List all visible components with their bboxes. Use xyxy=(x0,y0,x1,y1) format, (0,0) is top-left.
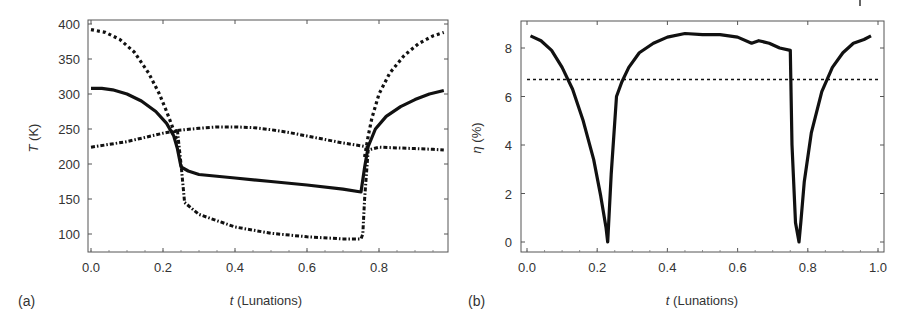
series-line-dotted xyxy=(91,30,177,143)
panel-label-b: (b) xyxy=(468,293,485,309)
axis-ticks-b: 0.00.20.40.60.81.002468 xyxy=(505,21,887,275)
y-axis-label-b: η (%) xyxy=(469,122,484,153)
y-tick-label: 400 xyxy=(58,17,80,32)
x-tick-label: 0.0 xyxy=(518,260,536,275)
series-line-solid xyxy=(91,88,444,192)
y-tick-label: 200 xyxy=(58,157,80,172)
chart-panel-a: 0.00.20.40.60.8100150200250300350400 T (… xyxy=(18,17,448,309)
panel-label-a: (a) xyxy=(18,293,35,309)
plot-series-a xyxy=(91,30,444,239)
plot-series-b xyxy=(527,34,878,243)
y-tick-label: 150 xyxy=(58,192,80,207)
x-tick-label: 0.2 xyxy=(588,260,606,275)
y-tick-label: 300 xyxy=(58,87,80,102)
x-tick-label: 0.0 xyxy=(82,260,100,275)
x-tick-label: 0.6 xyxy=(729,260,747,275)
x-tick-label: 0.6 xyxy=(298,260,316,275)
x-tick-label: 0.8 xyxy=(370,260,388,275)
axis-ticks-a: 0.00.20.40.60.8100150200250300350400 xyxy=(58,17,448,275)
y-tick-label: 100 xyxy=(58,227,80,242)
x-tick-label: 0.4 xyxy=(658,260,676,275)
x-tick-label: 0.2 xyxy=(154,260,172,275)
y-tick-label: 2 xyxy=(505,187,512,202)
y-tick-label: 0 xyxy=(505,235,512,250)
x-tick-label: 0.4 xyxy=(226,260,244,275)
x-axis-label-b: t (Lunations) xyxy=(666,293,738,308)
x-tick-label: 0.8 xyxy=(799,260,817,275)
series-line-dash-dot xyxy=(91,130,177,147)
x-tick-label: 1.0 xyxy=(869,260,887,275)
plot-frame-b xyxy=(521,21,884,252)
plot-frame-a xyxy=(88,20,448,252)
x-axis-label-a: t (Lunations) xyxy=(230,293,302,308)
y-tick-label: 6 xyxy=(505,90,512,105)
y-axis-label-a: T (K) xyxy=(26,124,41,153)
y-tick-label: 8 xyxy=(505,41,512,56)
y-tick-label: 250 xyxy=(58,122,80,137)
series-line-eta xyxy=(531,34,872,243)
series-line-dash-dot xyxy=(177,127,368,147)
y-tick-label: 350 xyxy=(58,52,80,67)
figure: 0.00.20.40.60.8100150200250300350400 T (… xyxy=(0,0,912,324)
chart-panel-b: 0.00.20.40.60.81.002468 η (%) t (Lunatio… xyxy=(468,21,887,309)
y-tick-label: 4 xyxy=(505,138,512,153)
